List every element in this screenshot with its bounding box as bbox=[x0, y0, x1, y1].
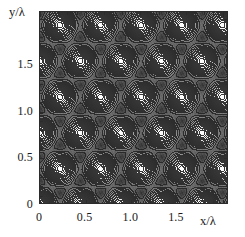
x-axis-title: x/λ bbox=[200, 215, 216, 228]
y-tick-label: 0.5 bbox=[17, 151, 33, 163]
contour-field bbox=[40, 12, 228, 204]
contour-figure: y/λ x/λ 00.51.01.5 00.51.01.5 bbox=[0, 0, 245, 237]
y-tick-label: 1.0 bbox=[17, 105, 33, 117]
y-tick-label: 0 bbox=[27, 198, 33, 210]
plot-area bbox=[39, 11, 228, 204]
x-tick-label: 0.5 bbox=[77, 211, 93, 223]
x-tick-label: 1.5 bbox=[168, 211, 184, 223]
x-tick-label: 1.0 bbox=[122, 211, 138, 223]
x-tick-label: 0 bbox=[36, 211, 42, 223]
y-axis-title: y/λ bbox=[9, 6, 25, 19]
y-tick-label: 1.5 bbox=[17, 58, 33, 70]
